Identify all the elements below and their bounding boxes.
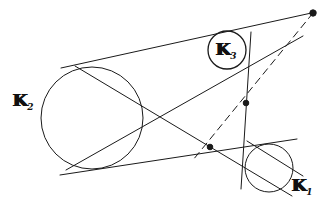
label-k2-subscript: 2 <box>27 102 33 112</box>
vertical-line-through-k3 <box>241 32 251 189</box>
label-k1-base: K <box>292 175 306 195</box>
apex-point <box>310 10 316 16</box>
label-circle-k3: K3 <box>216 41 237 61</box>
tangent-line-lower-outer <box>60 139 297 175</box>
tangent-line-crossing-b <box>75 66 292 196</box>
geometry-figure: K2 K3 K1 <box>0 0 325 209</box>
label-circle-k1: K1 <box>292 177 313 197</box>
label-circle-k2: K2 <box>13 92 34 112</box>
label-k2-base: K <box>13 90 27 110</box>
tangent-line-upper-outer <box>61 12 316 68</box>
figure-canvas <box>0 0 325 209</box>
tangent-line-crossing-a <box>66 36 303 170</box>
intersection-point-upper <box>243 100 249 106</box>
circle-k2 <box>41 67 143 169</box>
circle-k1 <box>245 144 293 192</box>
circles-group <box>41 31 293 192</box>
label-k1-subscript: 1 <box>306 187 312 197</box>
intersection-point-lower <box>207 144 213 150</box>
tangent-line-k1-right <box>247 141 303 176</box>
label-k3-base: K <box>216 39 230 59</box>
label-k3-subscript: 3 <box>230 51 236 61</box>
